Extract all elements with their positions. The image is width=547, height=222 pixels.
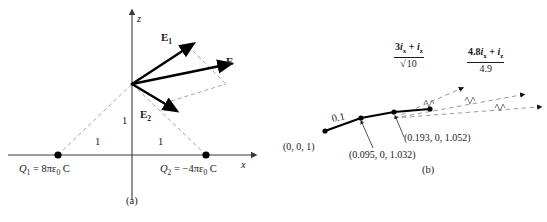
- panel-b-graphics: [0, 0, 547, 222]
- unit-vector-2-numerator: 4.8ix + iz: [466, 47, 505, 62]
- unit-vector-label-1: 3ix + iz √10: [393, 42, 425, 69]
- break-mark-middle: [465, 97, 475, 104]
- leader-line-point-1: [362, 123, 373, 148]
- trace-point-start: [322, 128, 327, 133]
- unit-vector-2-denominator: 4.9: [466, 63, 505, 75]
- figure-root: x z E1 E2 E 1 1 1 Q1 = 8πε0 C Q2 = −4πε0…: [0, 0, 547, 222]
- break-mark-upper: [424, 100, 434, 107]
- coord-label-point-2: (0.193, 0, 1.052): [404, 133, 471, 143]
- trace-point-2: [391, 109, 396, 114]
- trace-point-3: [427, 106, 432, 111]
- unit-vector-1-denominator: √10: [393, 58, 425, 70]
- unit-vector-1-numerator: 3ix + iz: [393, 42, 425, 57]
- coord-label-point-1: (0.095, 0, 1.032): [349, 150, 416, 160]
- dashed-ray-lower: [394, 107, 538, 118]
- unit-vector-label-2: 4.8ix + iz 4.9: [466, 47, 505, 74]
- trace-point-1: [358, 115, 363, 120]
- coord-label-start: (0, 0, 1): [283, 142, 315, 152]
- panel-b-caption: (b): [422, 165, 434, 176]
- break-mark-lower: [495, 104, 505, 111]
- leader-line-point-2: [396, 118, 404, 137]
